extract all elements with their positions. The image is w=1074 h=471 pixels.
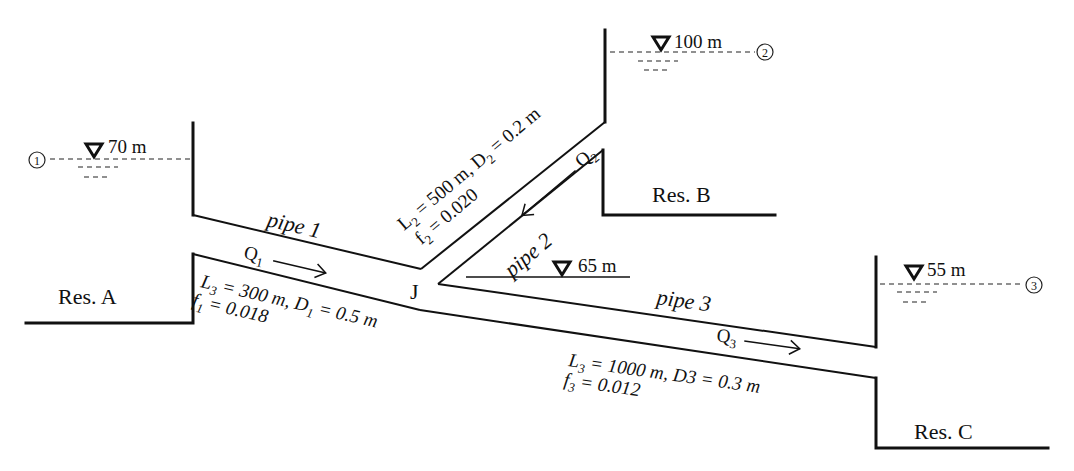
water-level-triangle-icon xyxy=(554,262,570,275)
water-level-triangle-icon xyxy=(653,37,669,50)
pipe-1-flow: Q1 xyxy=(241,241,328,284)
pipe-3-label: pipe 3 xyxy=(653,284,712,317)
pipe-3: pipe 3 Q3 L3 = 1000 m, D3 = 0.3 m f3 = 0… xyxy=(420,284,876,421)
reservoir-c: 55 m 3 Res. C xyxy=(876,257,1048,448)
reservoir-c-name: Res. C xyxy=(914,419,973,444)
point-marker-1-label: 1 xyxy=(34,154,40,168)
svg-text:L2 = 500 m, D2 = 0.2 m: L2 = 500 m, D2 = 0.2 m xyxy=(393,102,547,237)
reservoir-b-name: Res. B xyxy=(652,182,711,207)
reservoir-a: 70 m 1 Res. A xyxy=(26,123,193,323)
water-level-triangle-icon xyxy=(86,144,102,157)
pipe-3-properties: L3 = 1000 m, D3 = 0.3 m f3 = 0.012 xyxy=(562,349,762,421)
junction-elevation-label: 65 m xyxy=(578,255,617,276)
reservoir-b: 100 m 2 Res. B xyxy=(603,30,775,215)
svg-text:Q3: Q3 xyxy=(715,324,739,352)
water-level-triangle-icon xyxy=(906,266,922,279)
pipe-1-properties: L3 = 300 m, D1 = 0.5 m f1 = 0.018 xyxy=(190,270,380,355)
prop-text: = 0.5 m xyxy=(312,297,380,332)
junction-label: J xyxy=(410,279,419,304)
point-marker-3-label: 3 xyxy=(1031,279,1037,293)
pipe-1: pipe 1 Q1 L3 = 300 m, D1 = 0.5 m f1 = 0.… xyxy=(190,206,421,355)
flow-arrow-shaft xyxy=(273,261,326,273)
elevation-label-a: 70 m xyxy=(108,136,147,157)
flow-subscript: 3 xyxy=(728,336,737,352)
flow-arrow-shaft xyxy=(522,171,576,216)
pipe-1-label: pipe 1 xyxy=(263,206,324,243)
pipe-2-flow: Q2 xyxy=(512,142,602,223)
prop-text: = 0.2 m xyxy=(482,102,544,159)
point-marker-2-label: 2 xyxy=(762,46,768,60)
elevation-label-c: 55 m xyxy=(927,259,966,280)
elevation-label-b: 100 m xyxy=(674,31,722,52)
pipe-network-diagram: 70 m 1 Res. A 100 m 2 Res. B 55 m 3 Res.… xyxy=(0,0,1074,471)
reservoir-a-name: Res. A xyxy=(58,284,117,309)
pipe-2: pipe 2 Q2 L2 = 500 m, D2 = 0.2 m f2 = 0.… xyxy=(393,102,605,284)
flow-arrow-shaft xyxy=(744,341,799,349)
pipe-2-label: pipe 2 xyxy=(498,228,557,283)
